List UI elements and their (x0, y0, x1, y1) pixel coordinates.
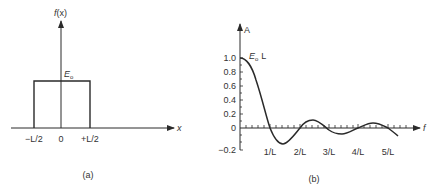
panel-b-y-tick-0: 0 (231, 123, 236, 133)
panel-b-y-tick-1: 1.0 (223, 53, 236, 63)
panel-b-y-tick-neg-0-2: −0.2 (218, 145, 236, 155)
panel-b-x-tick-1L: 1/L (264, 147, 277, 157)
panel-a-x-tick-pos: +L/2 (81, 134, 99, 144)
panel-a-caption: (a) (83, 170, 94, 180)
panel-a-x-axis-label: x (176, 123, 182, 133)
panel-b-sinc-spectrum: A f EoL 1.0 0.8 0.6 0.4 0.2 0 −0.2 1/L 2… (218, 24, 427, 184)
panel-b-x-axis-label: f (423, 123, 427, 133)
panel-a-rect-pulse (34, 81, 90, 128)
panel-b-y-tick-0-4: 0.4 (223, 95, 236, 105)
panel-a-amplitude-label: Eo (64, 69, 74, 80)
panel-b-y-axis-label: A (244, 25, 250, 35)
panel-a-y-axis-label: f(x) (54, 8, 67, 18)
panel-b-peak-label: EoL (249, 51, 266, 62)
panel-a-x-tick-neg: −L/2 (25, 134, 43, 144)
panel-b-x-tick-5L: 5/L (382, 147, 395, 157)
panel-a-rect-function: f(x) x Eo −L/2 0 +L/2 (a) (11, 8, 182, 180)
panel-b-amplitude-curve (240, 58, 398, 144)
figure: f(x) x Eo −L/2 0 +L/2 (a) (0, 0, 428, 189)
panel-b-x-tick-4L: 4/L (352, 147, 365, 157)
panel-b-y-tick-0-2: 0.2 (223, 109, 236, 119)
panel-b-y-tick-0-8: 0.8 (223, 67, 236, 77)
panel-a-x-tick-zero: 0 (58, 134, 63, 144)
panel-b-caption: (b) (309, 174, 320, 184)
panel-b-x-tick-2L: 2/L (294, 147, 307, 157)
panel-b-y-tick-0-6: 0.6 (223, 81, 236, 91)
panel-b-x-tick-3L: 3/L (323, 147, 336, 157)
